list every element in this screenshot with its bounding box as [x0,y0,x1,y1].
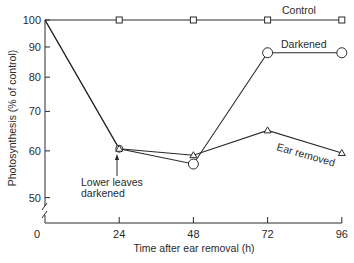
label-darkened: Darkened [281,38,327,50]
y-tick-label: 90 [29,41,41,53]
y-tick-label: 50 [29,192,41,204]
y-axis-title: Photosynthesis (% of control) [6,50,18,187]
label-control: Control [282,4,316,16]
circle-marker-icon [263,48,273,58]
square-marker-icon [339,17,345,23]
chart: 1009080706050024487296 Photosynthesis (%… [0,0,354,263]
y-tick-label: 70 [29,105,41,117]
x-tick-label: 48 [187,228,199,240]
y-tick-label: 100 [23,14,41,26]
label-ear-removed: Ear removed [275,140,336,168]
square-marker-icon [265,17,271,23]
x-tick-label: 72 [261,228,273,240]
circle-marker-icon [337,48,347,58]
annotation-arrow-icon [115,154,119,176]
y-tick-label: 80 [29,71,41,83]
square-marker-icon [116,17,122,23]
x-tick-label: 24 [113,228,125,240]
x-tick-label: 96 [336,228,348,240]
x-axis-title: Time after ear removal (h) [134,242,255,254]
triangle-marker-icon [264,127,271,133]
circle-marker-icon [188,159,198,169]
y-tick-label: 60 [29,145,41,157]
x-tick-label: 0 [34,228,40,240]
square-marker-icon [190,17,196,23]
annotation-lower-leaves-line2: darkened [81,187,125,199]
